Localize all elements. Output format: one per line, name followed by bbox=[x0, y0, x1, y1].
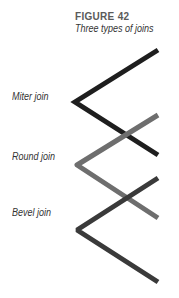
joins-diagram bbox=[0, 0, 179, 298]
